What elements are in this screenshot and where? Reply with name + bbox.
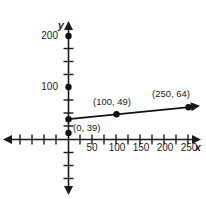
data-series-line (65, 102, 200, 122)
point-label-250-64: (250, 64) (152, 89, 190, 99)
x-axis-name: x (195, 142, 201, 153)
x-tick-label-50: 50 (82, 143, 102, 153)
y-axis-up-arrow-icon (64, 21, 73, 30)
y-axis-marker-200 (65, 33, 71, 39)
x-tick-label-200: 200 (153, 143, 177, 153)
x-tick-label-100: 100 (105, 143, 129, 153)
point-label-0-39: (0, 39) (73, 123, 100, 133)
x-tick-label-150: 150 (129, 143, 153, 153)
graph-figure: 200 100 50 100 150 200 250 x y (0, 39) (… (0, 0, 206, 199)
y-tick-label-200: 200 (26, 31, 58, 41)
data-point-100-49 (113, 111, 119, 117)
y-axis-marker-100 (65, 84, 71, 90)
y-tick-label-100: 100 (26, 82, 58, 92)
y-axis-name: y (58, 20, 64, 31)
data-point-250-64 (185, 104, 191, 110)
origin-marker (65, 130, 71, 136)
line-segment (69, 107, 193, 119)
x-axis-left-arrow-icon (3, 135, 12, 144)
y-axis (64, 21, 74, 195)
point-label-100-49: (100, 49) (93, 97, 131, 107)
line-end-arrow-icon (191, 102, 201, 111)
data-point-0-39 (65, 116, 71, 122)
y-axis-down-arrow-icon (64, 186, 73, 195)
